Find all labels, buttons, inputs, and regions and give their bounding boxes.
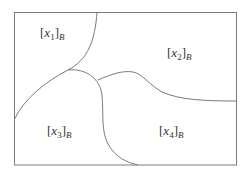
region-label-x3: [x3]B bbox=[47, 124, 71, 137]
partition-diagram bbox=[0, 0, 249, 172]
boundary-curve-x2-x4 bbox=[98, 72, 237, 101]
region-label-x4: [x4]B bbox=[159, 124, 183, 137]
region-label-x2: [x2]B bbox=[167, 46, 191, 59]
boundary-curve-x3-x4 bbox=[68, 70, 138, 165]
region-label-x1: [x1]B bbox=[40, 26, 64, 39]
